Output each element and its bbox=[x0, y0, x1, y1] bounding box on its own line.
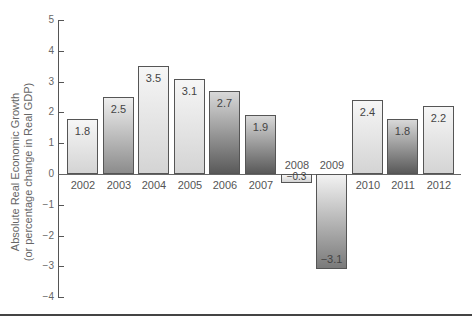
bar-value-label: −3.1 bbox=[317, 253, 346, 265]
y-tick-label: 3 bbox=[34, 76, 54, 87]
y-tick-label: −1 bbox=[34, 199, 54, 210]
bar-2005: 3.1 bbox=[174, 79, 205, 174]
y-tick bbox=[58, 266, 64, 267]
y-axis-title: Absolute Real Economic Growth (or percen… bbox=[9, 72, 35, 272]
bar-2002: 1.8 bbox=[67, 119, 98, 174]
x-tick-label: 2012 bbox=[422, 179, 456, 191]
x-tick-label: 2011 bbox=[386, 179, 420, 191]
bar-2004: 3.5 bbox=[138, 66, 169, 174]
x-tick-label: 2004 bbox=[137, 179, 171, 191]
bar-value-label: 2.5 bbox=[104, 103, 133, 115]
y-tick-label: 1 bbox=[34, 137, 54, 148]
x-tick-label: 2002 bbox=[66, 179, 100, 191]
bar-2006: 2.7 bbox=[209, 91, 240, 174]
y-tick bbox=[58, 236, 64, 237]
x-tick-label: 2008 bbox=[280, 159, 314, 171]
zero-baseline bbox=[58, 174, 461, 175]
bar-value-label: 2.7 bbox=[210, 97, 239, 109]
x-tick-label: 2003 bbox=[102, 179, 136, 191]
bar-2011: 1.8 bbox=[387, 119, 418, 174]
x-tick-label: 2006 bbox=[208, 179, 242, 191]
x-tick-label: 2005 bbox=[173, 179, 207, 191]
bottom-rule bbox=[0, 314, 472, 316]
y-tick bbox=[58, 51, 64, 52]
y-tick-label: 4 bbox=[34, 45, 54, 56]
y-tick-label: 0 bbox=[34, 168, 54, 179]
y-tick bbox=[58, 205, 64, 206]
y-tick bbox=[58, 112, 64, 113]
y-tick bbox=[58, 82, 64, 83]
y-tick-label: −3 bbox=[34, 260, 54, 271]
y-tick-label: −2 bbox=[34, 230, 54, 241]
y-axis-line bbox=[58, 20, 59, 297]
bar-value-label: 1.8 bbox=[68, 125, 97, 137]
bar-2009: −3.1 bbox=[316, 174, 347, 269]
bar-value-label: −0.3 bbox=[282, 171, 311, 182]
bar-2012: 2.2 bbox=[423, 106, 454, 174]
x-tick-label: 2010 bbox=[351, 179, 385, 191]
bar-value-label: 3.5 bbox=[139, 72, 168, 84]
bar-value-label: 3.1 bbox=[175, 85, 204, 97]
bar-value-label: 2.2 bbox=[424, 112, 453, 124]
y-tick-label: 2 bbox=[34, 106, 54, 117]
bar-2010: 2.4 bbox=[352, 100, 383, 174]
y-tick bbox=[58, 297, 64, 298]
bar-2007: 1.9 bbox=[245, 115, 276, 174]
x-tick-label: 2009 bbox=[315, 159, 349, 171]
bar-value-label: 2.4 bbox=[353, 106, 382, 118]
y-tick bbox=[58, 143, 64, 144]
y-tick-label: 5 bbox=[34, 14, 54, 25]
bar-2003: 2.5 bbox=[103, 97, 134, 174]
y-tick bbox=[58, 20, 64, 21]
y-axis-title-line-1: Absolute Real Economic Growth bbox=[9, 72, 22, 272]
x-tick-label: 2007 bbox=[244, 179, 278, 191]
y-tick-label: −4 bbox=[34, 291, 54, 302]
bar-value-label: 1.8 bbox=[388, 125, 417, 137]
bar-2008: −0.3 bbox=[281, 174, 312, 183]
bar-value-label: 1.9 bbox=[246, 121, 275, 133]
